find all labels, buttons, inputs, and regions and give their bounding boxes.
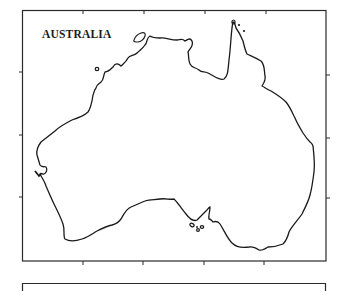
- melville-island: [134, 33, 145, 42]
- map-frame: [23, 11, 327, 262]
- map-title: AUSTRALIA: [42, 29, 112, 41]
- lower-panel-frame: [23, 284, 326, 291]
- kangaroo-island: [189, 223, 203, 232]
- mainland-coastline: [37, 22, 315, 250]
- small-island-kimberley: [95, 67, 99, 70]
- australia-map: [0, 0, 341, 291]
- bottom-ticks: [83, 261, 264, 265]
